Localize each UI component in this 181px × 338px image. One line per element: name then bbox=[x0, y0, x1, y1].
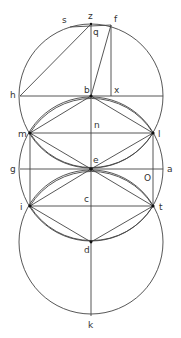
line-b-m bbox=[30, 96, 91, 133]
geometric-construction-diagram: s z f q h b x m n l g e O a i c t d k bbox=[0, 0, 181, 338]
label-g: g bbox=[10, 164, 16, 174]
arc-m-b-l bbox=[30, 98, 153, 133]
label-m: m bbox=[18, 129, 27, 139]
point-m bbox=[28, 131, 31, 134]
label-x: x bbox=[114, 85, 120, 95]
label-f: f bbox=[114, 14, 118, 24]
label-n: n bbox=[94, 120, 100, 130]
point-i bbox=[28, 204, 31, 207]
line-t-d bbox=[91, 206, 153, 242]
label-c: c bbox=[84, 194, 89, 204]
label-i: i bbox=[20, 202, 23, 212]
line-l-e bbox=[91, 133, 153, 169]
label-q: q bbox=[93, 27, 99, 37]
label-l: l bbox=[158, 129, 161, 139]
line-i-d bbox=[30, 206, 91, 242]
label-s: s bbox=[62, 15, 67, 25]
line-m-e bbox=[30, 133, 91, 169]
arc-i-e-t bbox=[30, 171, 153, 206]
label-t: t bbox=[159, 202, 163, 212]
point-d bbox=[90, 241, 93, 244]
line-b-l bbox=[91, 96, 153, 133]
line-h-z bbox=[20, 24, 91, 96]
label-e: e bbox=[93, 155, 99, 165]
label-k: k bbox=[88, 320, 94, 330]
arc-i-d-t bbox=[30, 206, 153, 241]
line-i-e bbox=[30, 169, 91, 206]
point-t bbox=[151, 204, 154, 207]
arc-m-e-l bbox=[30, 133, 153, 168]
point-e bbox=[89, 167, 93, 171]
label-d: d bbox=[84, 245, 90, 255]
point-l bbox=[151, 131, 154, 134]
label-z: z bbox=[88, 11, 93, 21]
point-z bbox=[90, 23, 92, 25]
label-h: h bbox=[10, 90, 16, 100]
label-a: a bbox=[167, 164, 173, 174]
point-b bbox=[89, 94, 92, 97]
label-o: O bbox=[144, 173, 151, 183]
label-b: b bbox=[84, 85, 90, 95]
